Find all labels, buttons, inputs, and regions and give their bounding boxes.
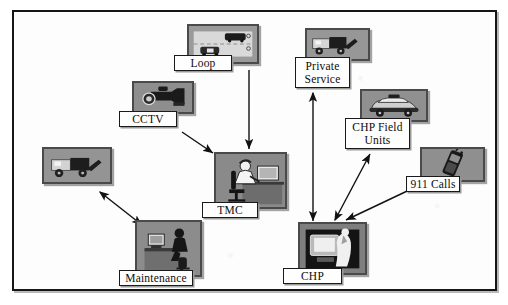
operator-workstation-icon <box>214 152 287 209</box>
desk-worker-icon <box>135 220 202 277</box>
label-line: Maintenance <box>125 272 187 285</box>
link-chp-to-chp-field <box>335 154 370 220</box>
node-label-maintenance[interactable]: Maintenance <box>119 270 193 286</box>
diagram-frame: Loop CCTV <box>12 10 497 291</box>
label-line: Service <box>305 73 341 86</box>
node-label-loop[interactable]: Loop <box>174 55 232 71</box>
tow-truck-icon <box>42 147 112 184</box>
node-label-tmc[interactable]: TMC <box>202 202 258 218</box>
label-line: CHP Field <box>352 121 402 134</box>
label-line: TMC <box>217 204 243 217</box>
link-cctv-to-tmc <box>182 132 213 153</box>
video-camera-icon <box>132 81 194 114</box>
node-label-911-calls[interactable]: 911 Calls <box>406 176 460 192</box>
label-line: Units <box>365 134 391 147</box>
label-line: 911 Calls <box>410 178 455 191</box>
diagram-canvas: Loop CCTV <box>0 0 508 305</box>
node-label-chp[interactable]: CHP <box>283 268 342 284</box>
label-line: CHP <box>301 270 324 283</box>
node-label-private-service[interactable]: Private Service <box>295 57 350 88</box>
label-line: CCTV <box>132 113 163 126</box>
label-line: Private <box>306 60 340 73</box>
node-label-chp-field-units[interactable]: CHP Field Units <box>345 118 410 149</box>
node-label-cctv[interactable]: CCTV <box>119 111 177 127</box>
label-line: Loop <box>190 57 215 70</box>
